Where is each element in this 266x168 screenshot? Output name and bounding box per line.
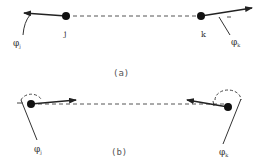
phi-k-label: φk — [231, 37, 241, 48]
angle-line-k — [219, 17, 230, 35]
node-k-label: k — [201, 30, 206, 39]
angle-arc-k — [215, 90, 241, 100]
panel-b-caption: (b) — [111, 147, 127, 157]
node-k — [224, 103, 232, 111]
panel-b: φj φk (b) — [17, 90, 241, 158]
node-j — [62, 12, 70, 20]
vector-arrow-k — [201, 8, 252, 16]
vector-arrow-j — [31, 100, 76, 104]
node-j-label: j — [63, 29, 66, 38]
phi-j-label: φj — [34, 144, 42, 156]
vector-arrow-j — [24, 13, 66, 16]
angle-arc-j — [21, 94, 41, 100]
phi-k-label: φk — [219, 147, 229, 158]
panel-a-caption: (a) — [113, 68, 129, 78]
panel-a: j φj k φk (a) — [13, 8, 252, 78]
diagram-canvas: j φj k φk (a) φj φk (b) — [0, 0, 266, 168]
node-k — [197, 12, 205, 20]
phi-j-label: φj — [13, 38, 21, 50]
node-j — [27, 100, 35, 108]
angle-arc-j — [23, 15, 30, 35]
